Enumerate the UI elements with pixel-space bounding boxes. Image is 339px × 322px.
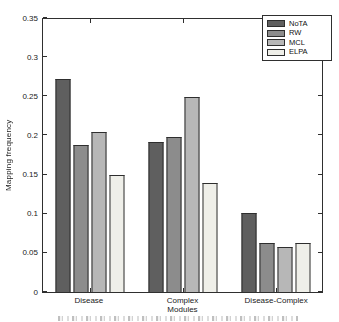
- bar-mcl-group3: [277, 247, 292, 292]
- x-tick-label: Disease: [74, 296, 103, 305]
- y-tick-mark: [318, 174, 322, 175]
- bar-elpa-group1: [109, 175, 124, 292]
- y-tick-label: 0.3: [0, 53, 38, 62]
- y-tick-mark: [43, 174, 47, 175]
- bar-rw-group3: [259, 243, 274, 292]
- bar-group-3: [241, 213, 310, 292]
- x-tick-mark: [90, 19, 91, 23]
- legend-item-mcl: MCL: [267, 38, 327, 47]
- bar-elpa-group3: [295, 243, 310, 292]
- bar-mcl-group2: [184, 97, 199, 292]
- legend-label: MCL: [289, 39, 305, 47]
- x-tick-mark: [183, 19, 184, 23]
- x-tick-label: Disease-Complex: [245, 296, 308, 305]
- bar-mcl-group1: [91, 132, 106, 292]
- bar-elpa-group2: [202, 183, 217, 292]
- y-tick-mark: [43, 56, 47, 57]
- bar-rw-group1: [73, 145, 88, 292]
- bar-group-2: [148, 97, 217, 292]
- legend-swatch-rw: [267, 30, 285, 37]
- bar-nota-group2: [148, 142, 163, 292]
- y-tick-mark: [43, 213, 47, 214]
- y-tick-label: 0.35: [0, 14, 38, 23]
- y-tick-mark: [318, 213, 322, 214]
- y-tick-mark: [43, 291, 47, 292]
- legend-swatch-elpa: [267, 49, 285, 56]
- legend-item-nota: NoTA: [267, 19, 327, 28]
- legend-swatch-mcl: [267, 39, 285, 46]
- legend-label: NoTA: [289, 20, 308, 28]
- y-tick-label: 0.25: [0, 92, 38, 101]
- bar-nota-group1: [55, 79, 70, 292]
- figure: Mapping frequency 00.050.10.150.20.250.3…: [0, 0, 339, 322]
- y-tick-mark: [318, 134, 322, 135]
- y-tick-mark: [43, 134, 47, 135]
- legend-label: RW: [289, 29, 301, 37]
- x-tick-label: ComplexModules: [167, 296, 199, 314]
- legend-swatch-nota: [267, 20, 285, 27]
- y-tick-label: 0: [0, 288, 38, 297]
- y-tick-label: 0.2: [0, 131, 38, 140]
- legend-item-rw: RW: [267, 29, 327, 38]
- y-tick-mark: [43, 95, 47, 96]
- y-tick-mark: [318, 291, 322, 292]
- bar-rw-group2: [166, 137, 181, 292]
- legend-label: ELPA: [289, 48, 308, 56]
- cropped-caption-fragment: [58, 316, 298, 321]
- y-tick-mark: [318, 95, 322, 96]
- y-tick-label: 0.05: [0, 248, 38, 257]
- y-tick-mark: [43, 252, 47, 253]
- y-tick-mark: [43, 17, 47, 18]
- y-tick-mark: [318, 252, 322, 253]
- y-tick-label: 0.15: [0, 170, 38, 179]
- bar-nota-group3: [241, 213, 256, 292]
- y-tick-label: 0.1: [0, 209, 38, 218]
- legend: NoTARWMCLELPA: [262, 15, 332, 61]
- legend-item-elpa: ELPA: [267, 48, 327, 57]
- bar-group-1: [55, 79, 124, 292]
